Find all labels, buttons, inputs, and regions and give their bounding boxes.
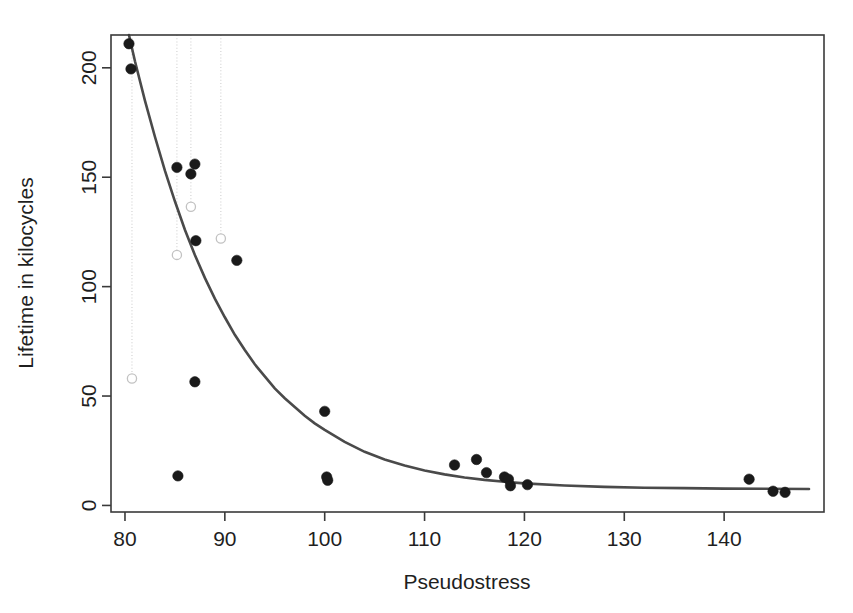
fitted-curve <box>129 35 809 489</box>
data-point <box>173 471 183 481</box>
y-tick-label: 200 <box>77 50 100 85</box>
fitted-curve-group <box>129 35 809 489</box>
y-axis-title: Lifetime in kilocycles <box>14 177 37 368</box>
data-point <box>780 487 790 497</box>
y-tick-label: 150 <box>77 160 100 195</box>
x-tick-label: 100 <box>307 527 342 550</box>
y-axis-ticks: 050100150200 <box>77 50 111 511</box>
plot-frame <box>111 35 824 512</box>
data-point <box>481 467 491 477</box>
x-tick-label: 140 <box>707 527 742 550</box>
data-point <box>320 406 330 416</box>
x-tick-label: 80 <box>113 527 136 550</box>
x-axis-ticks: 8090100110120130140 <box>113 512 741 550</box>
y-tick-label: 100 <box>77 269 100 304</box>
x-axis-title: Pseudostress <box>403 570 530 593</box>
data-point <box>522 479 532 489</box>
data-point <box>449 460 459 470</box>
open-data-point <box>186 202 195 211</box>
data-point <box>186 169 196 179</box>
data-point <box>744 474 754 484</box>
x-tick-label: 120 <box>507 527 542 550</box>
data-point <box>232 255 242 265</box>
y-tick-label: 0 <box>77 500 100 512</box>
open-data-point <box>216 234 225 243</box>
data-point <box>505 481 515 491</box>
filled-points-group <box>124 39 790 498</box>
data-point <box>768 486 778 496</box>
x-tick-label: 110 <box>408 527 441 550</box>
data-point <box>124 39 134 49</box>
data-point <box>190 377 200 387</box>
data-point <box>126 64 136 74</box>
open-data-point <box>172 250 181 259</box>
data-point <box>190 159 200 169</box>
figure-container: 8090100110120130140 050100150200 Pseudos… <box>0 0 853 613</box>
scatter-plot: 8090100110120130140 050100150200 Pseudos… <box>0 0 853 613</box>
data-point <box>172 162 182 172</box>
open-data-point <box>127 374 136 383</box>
data-point <box>323 475 333 485</box>
y-tick-label: 50 <box>77 384 100 407</box>
data-point <box>191 235 201 245</box>
x-tick-label: 90 <box>213 527 236 550</box>
x-tick-label: 130 <box>607 527 642 550</box>
data-point <box>471 454 481 464</box>
